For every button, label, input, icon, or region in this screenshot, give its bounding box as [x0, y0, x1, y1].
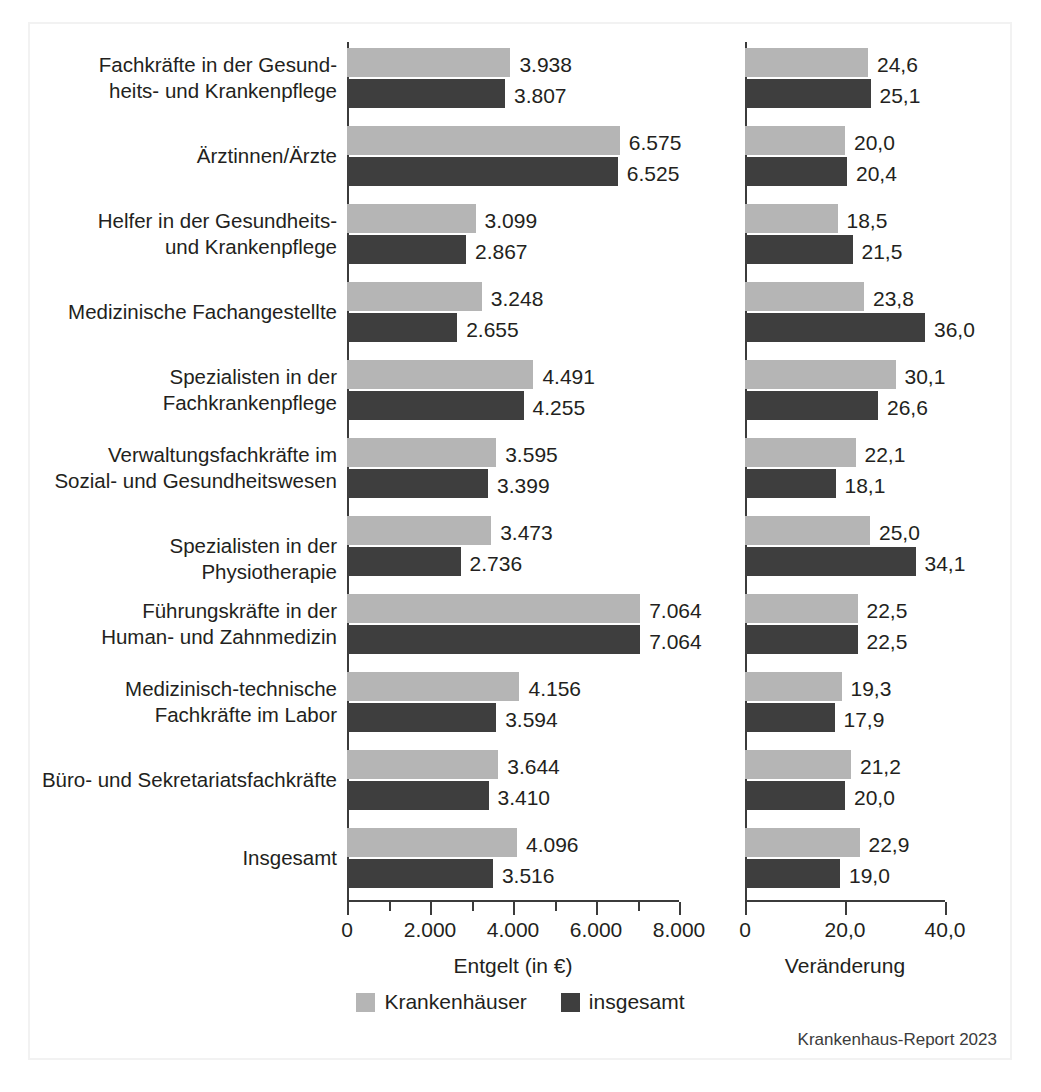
category-label-line: Fachkräfte in der Gesund- [40, 52, 337, 78]
category-label: Fachkräfte in der Gesund-heits- und Kran… [40, 52, 337, 104]
bar-group: 22,919,0 [745, 828, 945, 890]
bar-value-label: 3.399 [497, 475, 550, 496]
bar-group: 6.5756.525 [347, 126, 679, 188]
bar-krankenhaeuser [745, 48, 868, 77]
bar-group: 4.0963.516 [347, 828, 679, 890]
bar-value-label: 18,5 [847, 210, 888, 231]
bar-value-label: 7.064 [649, 600, 702, 621]
footer-source-text: Krankenhaus-Report 2023 [798, 1030, 997, 1050]
bar-value-label: 4.156 [528, 678, 581, 699]
bar-krankenhaeuser [347, 750, 498, 779]
category-label-line: Spezialisten in der Physiotherapie [40, 533, 337, 585]
x-axis-tick-label: 4.000 [487, 918, 540, 942]
category-label-line: und Krankenpflege [40, 234, 337, 260]
category-label-line: Büro- und Sekretariatsfachkräfte [40, 767, 337, 793]
category-label-line: Spezialisten in der [40, 364, 337, 390]
bar-value-label: 4.491 [542, 366, 595, 387]
bar-value-label: 18,1 [845, 475, 886, 496]
x-axis-tick [845, 902, 847, 915]
bar-value-label: 22,9 [869, 834, 910, 855]
x-axis-tick-label: 2.000 [404, 918, 457, 942]
bar-group: 3.2482.655 [347, 282, 679, 344]
bar-insgesamt [347, 235, 466, 264]
bar-krankenhaeuser [745, 126, 845, 155]
legend-item: insgesamt [561, 990, 685, 1014]
bar-insgesamt [347, 79, 505, 108]
category-label-line: Fachkräfte im Labor [40, 702, 337, 728]
bar-group: 3.4732.736 [347, 516, 679, 578]
bar-krankenhaeuser [745, 594, 858, 623]
bar-krankenhaeuser [347, 48, 510, 77]
bar-value-label: 21,5 [862, 241, 903, 262]
bar-krankenhaeuser [347, 516, 491, 545]
category-label: Medizinisch-technischeFachkräfte im Labo… [40, 676, 337, 728]
x-axis-tick [472, 902, 474, 911]
panel-entgelt: 3.9383.8076.5756.5253.0992.8673.2482.655… [347, 42, 679, 900]
bar-krankenhaeuser [347, 126, 620, 155]
bar-value-label: 3.938 [519, 54, 572, 75]
bar-value-label: 20,0 [854, 132, 895, 153]
bar-value-label: 21,2 [860, 756, 901, 777]
bar-krankenhaeuser [347, 594, 640, 623]
bar-krankenhaeuser [347, 672, 519, 701]
bar-insgesamt [347, 781, 489, 810]
bar-group: 18,521,5 [745, 204, 945, 266]
bar-group: 19,317,9 [745, 672, 945, 734]
bar-value-label: 17,9 [844, 709, 885, 730]
bar-group: 7.0647.064 [347, 594, 679, 656]
bar-krankenhaeuser [745, 438, 856, 467]
bar-value-label: 3.594 [505, 709, 558, 730]
category-label-line: Medizinisch-technische [40, 676, 337, 702]
bar-value-label: 6.575 [629, 132, 682, 153]
bar-krankenhaeuser [347, 360, 533, 389]
x-axis-tick [596, 902, 598, 915]
legend-swatch-icon [356, 993, 375, 1012]
legend-label: Krankenhäuser [384, 990, 526, 1014]
bar-value-label: 19,3 [851, 678, 892, 699]
bar-group: 24,625,1 [745, 48, 945, 110]
bar-insgesamt [745, 859, 840, 888]
bar-insgesamt [347, 625, 640, 654]
bar-krankenhaeuser [745, 204, 838, 233]
category-label: Büro- und Sekretariatsfachkräfte [40, 767, 337, 793]
x-axis-tick-label: 0 [341, 918, 353, 942]
bar-value-label: 26,6 [887, 397, 928, 418]
bar-value-label: 3.248 [491, 288, 544, 309]
bar-krankenhaeuser [745, 282, 864, 311]
bar-krankenhaeuser [745, 360, 896, 389]
category-label: Spezialisten in der Physiotherapie [40, 533, 337, 585]
bar-krankenhaeuser [745, 828, 860, 857]
bar-group: 20,020,4 [745, 126, 945, 188]
bar-krankenhaeuser [745, 672, 842, 701]
bar-value-label: 19,0 [849, 865, 890, 886]
category-label-line: Human- und Zahnmedizin [40, 624, 337, 650]
bar-value-label: 2.867 [475, 241, 528, 262]
category-label: Insgesamt [40, 845, 337, 871]
x-axis-title: Veränderung [785, 954, 905, 978]
x-axis-title: Entgelt (in €) [453, 954, 572, 978]
x-axis-tick [679, 902, 681, 915]
x-axis-tick [638, 902, 640, 911]
bar-value-label: 4.096 [526, 834, 579, 855]
bar-value-label: 23,8 [873, 288, 914, 309]
legend-item: Krankenhäuser [356, 990, 526, 1014]
category-label-line: heits- und Krankenpflege [40, 78, 337, 104]
category-label-line: Fachkrankenpflege [40, 390, 337, 416]
bar-insgesamt [745, 235, 853, 264]
bar-insgesamt [347, 391, 524, 420]
x-axis-tick-label: 6.000 [570, 918, 623, 942]
bar-value-label: 22,5 [867, 631, 908, 652]
bar-group: 23,836,0 [745, 282, 945, 344]
chart-page: Fachkräfte in der Gesund-heits- und Kran… [0, 0, 1041, 1092]
bar-krankenhaeuser [745, 516, 870, 545]
category-label-line: Sozial- und Gesundheitswesen [40, 468, 337, 494]
bar-value-label: 34,1 [925, 553, 966, 574]
category-label-line: Verwaltungsfachkräfte im [40, 442, 337, 468]
bar-insgesamt [347, 547, 461, 576]
category-label-line: Führungskräfte in der [40, 598, 337, 624]
bar-krankenhaeuser [347, 204, 476, 233]
bar-insgesamt [745, 313, 925, 342]
bar-value-label: 6.525 [627, 163, 680, 184]
category-label: Spezialisten in derFachkrankenpflege [40, 364, 337, 416]
bar-group: 3.9383.807 [347, 48, 679, 110]
